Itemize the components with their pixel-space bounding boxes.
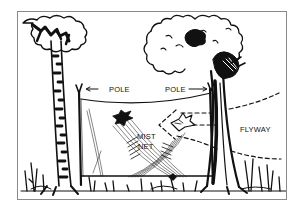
- illustration-frame: POLE POLE MIST NET FLYWAY: [17, 11, 287, 200]
- pole-right-arrow-icon: [189, 87, 207, 91]
- label-pole-left: POLE: [109, 86, 130, 94]
- label-net: NET: [138, 143, 154, 151]
- caught-bird-icon: [113, 110, 133, 126]
- label-pole-right: POLE: [165, 86, 186, 94]
- label-mist: MIST: [137, 133, 156, 141]
- flying-bird-icon: [171, 113, 195, 131]
- pole-left-arrow-icon: [86, 87, 98, 91]
- label-flyway: FLYWAY: [240, 126, 271, 134]
- mist-net-illustration: [18, 12, 287, 200]
- left-tree-icon: [23, 16, 87, 196]
